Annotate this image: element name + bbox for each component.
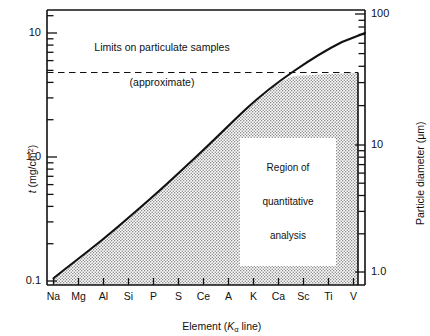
x-axis-title-suffix: line) (239, 320, 262, 332)
y-axis-left-unit-exponent: 2 (26, 148, 35, 152)
annotation-region-of-quantitative-analysis: Region of quantitative analysis (240, 138, 336, 266)
y-axis-left-symbol: t (26, 190, 38, 193)
x-axis-title: Element (Kα line) (146, 309, 286, 336)
x-tick-label-v: V (336, 291, 371, 303)
annotation-line-3: analysis (245, 230, 331, 241)
chart-title-line-2: (approximate) (62, 77, 262, 89)
y-axis-left-unit-open: (mg/cm (26, 152, 38, 190)
y-axis-right-title: Particle diameter (μm) (414, 122, 426, 226)
y-right-tick-10: 10 (371, 138, 411, 150)
y-right-tick-100: 100 (371, 7, 411, 19)
x-axis-title-prefix: Element ( (182, 320, 227, 332)
annotation-line-1: Region of (245, 162, 331, 173)
chart-title: Limits on particulate samples (approxima… (62, 18, 262, 112)
annotation-line-2: quantitative (245, 196, 331, 207)
y-right-tick-1p0: 1.0 (371, 265, 411, 277)
y-left-tick-0p1: 0.1 (8, 274, 41, 286)
chart-title-line-1: Limits on particulate samples (62, 42, 262, 54)
y-left-tick-10: 10 (8, 26, 41, 38)
y-axis-left-title: t (mg/cm2) (14, 145, 50, 205)
y-axis-left-unit-close: ) (26, 145, 38, 149)
